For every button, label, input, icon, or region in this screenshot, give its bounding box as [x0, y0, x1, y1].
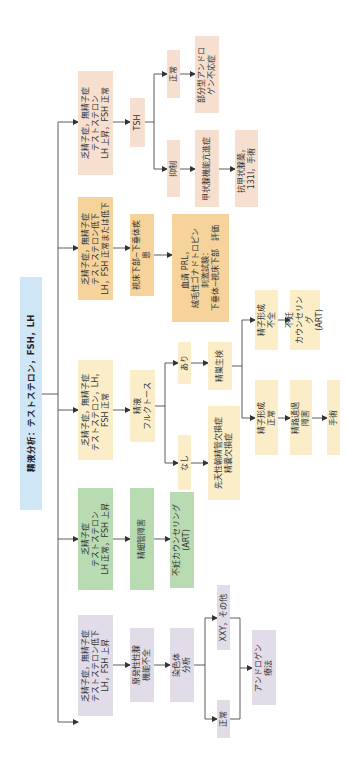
branch-green-condition: 乏精子症 テストステロン LH 正常，FSH 上昇 — [78, 488, 113, 590]
spermatogenesis-poor-node: 精子形成 不全 — [255, 290, 278, 350]
chromosome-analysis-node: 染色体 分析 — [170, 628, 194, 702]
surgery-node: 手術 — [327, 380, 340, 455]
partial-androgen-insensitivity-node: 部分型アンドロ ゲン不応症 — [195, 36, 219, 113]
ductal-obstruction-node: 精路通過 障害 — [290, 380, 312, 455]
root-semen-analysis: 精液分析：テストステロン，FSH，LH — [20, 277, 42, 510]
branch-yellow-condition: 乏精子症，無精子症 テストステロン，LH， FSH 正常 — [78, 360, 113, 460]
tsh-node: TSH — [130, 98, 145, 147]
flowchart-canvas: 精液分析：テストステロン，FSH，LH 乏精子症，無精子症 テストステロン LH… — [0, 0, 349, 781]
congenital-absence-node: 先天性輸精管欠損症 精嚢欠損症 — [208, 406, 240, 500]
infertility-counseling-art-node: 不妊 カウンセリング (ART) — [290, 290, 320, 350]
fructose-present-node: あり — [178, 342, 191, 384]
branch-orange-condition: 乏精子症，無精子症 テストステロン低下 LH，FSH 正常または低下 — [78, 197, 113, 300]
androgen-therapy-node: アンドロゲン 療法 — [252, 630, 276, 705]
hyperthyroidism-node: 甲状腺機能亢進症 — [195, 130, 219, 207]
branch-pink-condition: 乏精子症，無精子症 テストステロン LH 上昇，FSH 正常 — [78, 71, 113, 175]
branch-lavender-condition: 乏精子症，無精子症 テストステロン低下 LH，FSH 上昇 — [78, 615, 113, 716]
tsh-suppressed-node: 抑制 — [167, 140, 180, 197]
antithyroid-treatment-node: 抗甲状腺薬， 131I，手術 — [235, 130, 258, 207]
fructose-absent-node: なし — [178, 435, 191, 490]
testicular-biopsy-node: 精巣生検 — [208, 342, 232, 390]
infertility-counseling-art-node-2: 不妊カウンセリング (ART) — [170, 492, 194, 588]
semen-fructose-node: 精液 フルクトース — [130, 370, 155, 442]
primary-hypogonadism-node: 原発性性腺 機能不全 — [130, 628, 154, 702]
spermatogenesis-normal-node: 精子形成 正常 — [255, 380, 278, 455]
xxy-other-node: XXY，その他 — [217, 585, 230, 650]
tsh-normal-node: 正常 — [167, 50, 180, 98]
hypothalamic-pituitary-node: 視床下部−下垂体疾患 — [130, 214, 154, 296]
seminiferous-tubule-disorder-node: 精細管障害 — [130, 488, 154, 590]
chromosome-normal-node: 正常 — [217, 700, 230, 738]
serum-prl-evaluation-node: 血清 PRL， 絨毛性ゴナドトロピン 刺激試験： 下垂体−視床下部 評価 — [172, 214, 229, 322]
